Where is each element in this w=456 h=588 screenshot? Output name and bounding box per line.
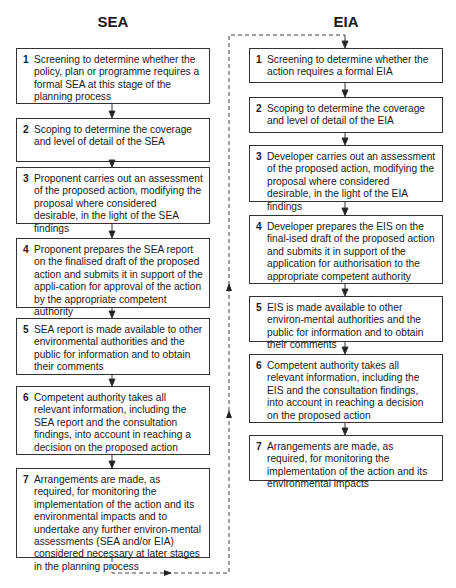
dashed-connector-arrowheads bbox=[164, 283, 232, 576]
flow-connectors bbox=[0, 0, 456, 588]
eia-down-arrows bbox=[342, 35, 348, 435]
sea-down-arrows bbox=[109, 104, 115, 468]
sea7-to-eia1-dashed-connector bbox=[112, 35, 345, 573]
